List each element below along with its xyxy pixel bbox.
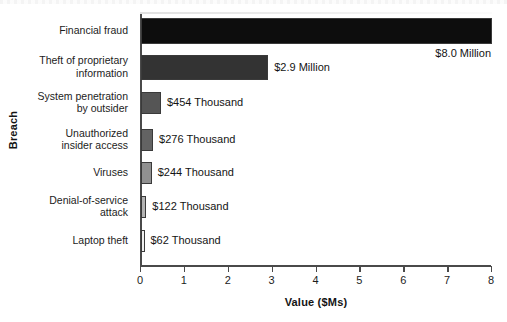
- bar-value-label-1: $2.9 Million: [274, 61, 330, 73]
- bar-1: [141, 55, 268, 80]
- bar-0: [141, 18, 492, 44]
- category-label-line: Unauthorized: [0, 127, 128, 140]
- bar-value-label-0: $8.0 Million: [371, 47, 491, 59]
- x-tick-2: [228, 266, 229, 272]
- x-tick-1: [184, 266, 185, 272]
- bar-value-label-5: $122 Thousand: [152, 200, 228, 212]
- category-label-line: information: [0, 67, 128, 80]
- x-tick-0: [140, 266, 141, 272]
- x-tick-label-7: 7: [435, 274, 459, 286]
- bar-value-label-6: $62 Thousand: [151, 234, 221, 246]
- x-tick-3: [272, 266, 273, 272]
- x-tick-5: [359, 266, 360, 272]
- category-label-3: Unauthorizedinsider access: [0, 127, 134, 152]
- category-label-line: Denial-of-service: [0, 194, 128, 207]
- bar-5: [141, 196, 146, 218]
- category-label-line: by outsider: [0, 102, 128, 115]
- category-label-0: Financial fraud: [0, 24, 134, 37]
- x-tick-4: [316, 266, 317, 272]
- bar-2: [141, 92, 161, 114]
- x-tick-label-1: 1: [172, 274, 196, 286]
- category-label-line: attack: [0, 206, 128, 219]
- category-label-line: Laptop theft: [0, 234, 128, 247]
- category-label-line: Theft of proprietary: [0, 54, 128, 67]
- category-label-1: Theft of proprietaryinformation: [0, 54, 134, 79]
- x-tick-8: [491, 266, 492, 272]
- category-label-4: Viruses: [0, 166, 134, 179]
- x-tick-label-4: 4: [304, 274, 328, 286]
- bar-6: [141, 230, 145, 252]
- bar-value-label-4: $244 Thousand: [158, 166, 234, 178]
- x-tick-label-0: 0: [128, 274, 152, 286]
- category-label-2: System penetrationby outsider: [0, 90, 134, 115]
- category-label-line: insider access: [0, 139, 128, 152]
- category-label-line: Viruses: [0, 166, 128, 179]
- bar-value-label-2: $454 Thousand: [167, 96, 243, 108]
- scan-artifact-band: [0, 0, 507, 4]
- x-tick-label-5: 5: [347, 274, 371, 286]
- x-tick-label-3: 3: [260, 274, 284, 286]
- x-tick-7: [447, 266, 448, 272]
- x-tick-label-6: 6: [391, 274, 415, 286]
- bar-value-label-3: $276 Thousand: [159, 133, 235, 145]
- x-tick-label-2: 2: [216, 274, 240, 286]
- category-label-6: Laptop theft: [0, 234, 134, 247]
- category-label-line: Financial fraud: [0, 24, 128, 37]
- category-label-line: System penetration: [0, 90, 128, 103]
- x-axis-title: Value ($Ms): [140, 296, 492, 308]
- x-tick-label-8: 8: [479, 274, 503, 286]
- bar-3: [141, 129, 153, 151]
- bar-chart: Breach Value ($Ms) 012345678 Financial f…: [0, 0, 507, 322]
- x-tick-6: [403, 266, 404, 272]
- scan-artifact-streak: [140, 12, 492, 14]
- bar-4: [141, 162, 152, 184]
- category-label-5: Denial-of-serviceattack: [0, 194, 134, 219]
